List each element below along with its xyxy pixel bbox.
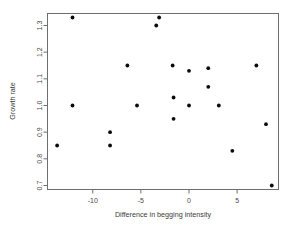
data-point [172,96,176,100]
data-point [206,66,210,70]
y-tick-label: 0.7 [36,181,43,191]
data-point [187,104,191,108]
y-axis-title: Growth rate [8,82,17,120]
x-axis-tick-labels: -10-505 [88,197,239,204]
y-tick-label: 1.0 [36,101,43,111]
y-tick-label: 0.9 [36,127,43,137]
data-point [108,130,112,134]
x-tick-label: -10 [88,197,98,204]
x-axis-title: Difference in begging intensity [115,210,212,219]
data-point [264,122,268,126]
x-tick-label: 0 [187,197,191,204]
data-point [125,64,129,68]
x-tick-label: -5 [138,197,144,204]
y-tick-label: 1.3 [36,21,43,31]
data-point [270,184,274,188]
data-point [171,64,175,68]
data-point [206,85,210,89]
data-point [217,104,221,108]
y-tick-label: 1.2 [36,47,43,57]
data-point [108,144,112,148]
data-point [254,64,258,68]
data-point [172,117,176,121]
data-point [230,149,234,153]
y-axis-ticks [44,26,48,186]
data-point [71,16,75,20]
data-point [157,16,161,20]
y-axis-tick-labels: 0.70.80.91.01.11.21.3 [36,21,43,191]
x-axis-ticks [93,190,237,194]
data-point-group [55,16,273,188]
scatter-plot-figure: 0.70.80.91.01.11.21.3 -10-505 Difference… [0,0,292,235]
data-point [135,104,139,108]
data-point [187,69,191,73]
y-tick-label: 1.1 [36,74,43,84]
plot-frame [48,14,279,190]
plot-canvas: 0.70.80.91.01.11.21.3 -10-505 Difference… [0,0,292,235]
data-point [154,24,158,28]
x-tick-label: 5 [235,197,239,204]
data-point [71,104,75,108]
y-tick-label: 0.8 [36,154,43,164]
data-point [55,144,59,148]
